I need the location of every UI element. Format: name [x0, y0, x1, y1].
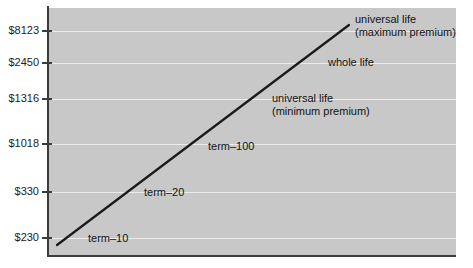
y-tick-label-1316: $1316	[8, 93, 39, 104]
annotation-ul-min-line1: universal life	[272, 92, 333, 104]
y-tick-label-330: $330	[15, 186, 39, 197]
annotation-whole-life-label: whole life	[328, 56, 374, 68]
annotation-ul-min-line2: (minimum premium)	[272, 105, 370, 118]
y-axis-spine	[47, 6, 49, 257]
y-tick-2450	[42, 62, 52, 64]
annotation-term-100: term–100	[208, 140, 254, 153]
y-tick-8123	[42, 30, 52, 32]
y-tick-1018	[42, 143, 52, 145]
annotation-term-20-label: term–20	[144, 186, 184, 198]
y-tick-1316	[42, 98, 52, 100]
annotation-ul-max-line1: universal life	[355, 13, 416, 25]
insurance-premium-chart: $8123 $2450 $1316 $1018 $330 $230 term–1…	[0, 0, 473, 268]
y-tick-label-230: $230	[15, 232, 39, 243]
y-tick-230	[42, 237, 52, 239]
annotation-term-20: term–20	[144, 186, 184, 199]
annotation-ul-max-line2: (maximum premium)	[355, 26, 456, 39]
y-tick-label-1018: $1018	[8, 138, 39, 149]
annotation-term-10: term–10	[88, 232, 128, 245]
gridline-2450	[49, 63, 456, 64]
annotation-term-10-label: term–10	[88, 232, 128, 244]
annotation-universal-life-minimum-premium: universal life (minimum premium)	[272, 92, 370, 118]
plot-area	[49, 8, 456, 255]
x-axis-spine	[47, 255, 456, 257]
annotation-term-100-label: term–100	[208, 140, 254, 152]
annotation-universal-life-maximum-premium: universal life (maximum premium)	[355, 13, 456, 39]
y-tick-label-8123: $8123	[8, 25, 39, 36]
gridline-330	[49, 192, 456, 193]
gridline-1316	[49, 99, 456, 100]
annotation-whole-life: whole life	[328, 56, 374, 69]
y-tick-330	[42, 191, 52, 193]
y-tick-label-2450: $2450	[8, 57, 39, 68]
